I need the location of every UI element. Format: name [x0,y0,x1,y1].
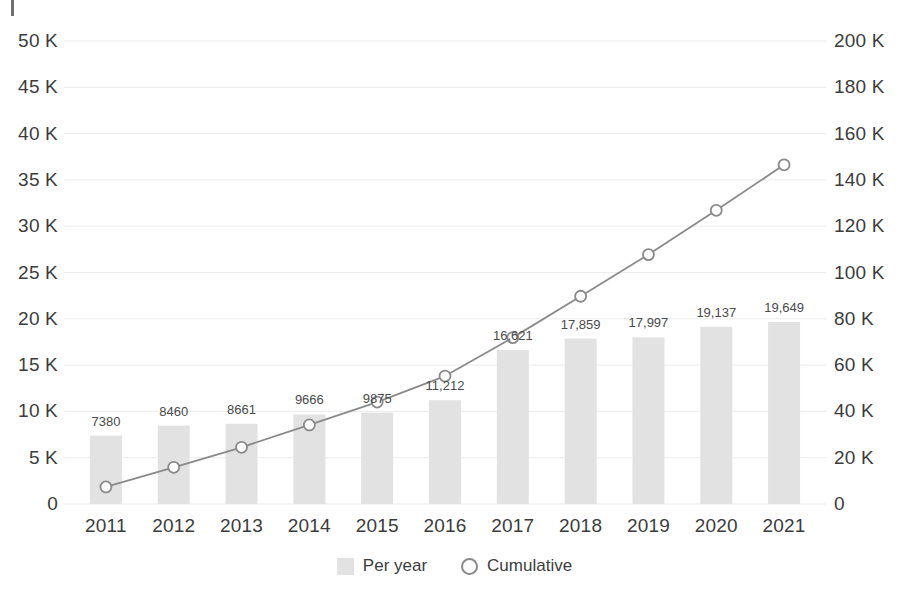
right-axis-tick-180K: 180 K [834,76,885,98]
bar-2018[interactable] [565,339,597,504]
legend-item-cumulative[interactable]: Cumulative [461,556,572,576]
right-axis-tick-0: 0 [834,493,845,515]
left-axis-tick-30K: 30 K [18,215,58,237]
chart-legend: Per year Cumulative [0,556,909,576]
cumulative-point-2018[interactable] [575,291,586,302]
right-axis-tick-140K: 140 K [834,169,885,191]
cumulative-point-2013[interactable] [236,442,247,453]
x-axis-tick-2021: 2021 [744,515,824,537]
bar-value-2021: 19,649 [744,300,824,315]
bar-value-2016: 11,212 [405,378,485,393]
left-axis-tick-50K: 50 K [18,30,58,52]
right-axis-tick-20K: 20 K [834,447,874,469]
right-axis-tick-160K: 160 K [834,123,885,145]
bar-2011[interactable] [90,436,122,504]
bar-2015[interactable] [361,413,393,504]
bar-2013[interactable] [226,424,258,504]
cumulative-point-2020[interactable] [711,205,722,216]
circle-marker-icon [461,558,478,575]
left-axis-tick-5K: 5 K [29,447,58,469]
left-axis-tick-10K: 10 K [18,400,58,422]
cumulative-point-2012[interactable] [168,462,179,473]
cumulative-point-2014[interactable] [304,419,315,430]
legend-label-per-year: Per year [363,556,427,576]
bar-2019[interactable] [632,337,664,504]
legend-item-per-year[interactable]: Per year [337,556,427,576]
left-axis-tick-35K: 35 K [18,169,58,191]
right-axis-tick-60K: 60 K [834,354,874,376]
right-axis-tick-80K: 80 K [834,308,874,330]
left-axis-tick-25K: 25 K [18,262,58,284]
legend-label-cumulative: Cumulative [487,556,572,576]
right-axis-tick-120K: 120 K [834,215,885,237]
left-axis-tick-40K: 40 K [18,123,58,145]
right-axis-tick-100K: 100 K [834,262,885,284]
left-axis-tick-15K: 15 K [18,354,58,376]
bar-2017[interactable] [497,350,529,504]
left-axis-tick-45K: 45 K [18,76,58,98]
cumulative-point-2011[interactable] [100,481,111,492]
left-axis-tick-0: 0 [47,493,58,515]
bar-2016[interactable] [429,400,461,504]
bar-2020[interactable] [700,327,732,504]
right-axis-tick-200K: 200 K [834,30,885,52]
cumulative-per-year-chart: 05 K10 K15 K20 K25 K30 K35 K40 K45 K50 K… [0,0,909,599]
cumulative-point-2019[interactable] [643,249,654,260]
right-axis-tick-40K: 40 K [834,400,874,422]
bar-swatch-icon [337,558,354,575]
cumulative-point-2021[interactable] [779,159,790,170]
left-axis-tick-20K: 20 K [18,308,58,330]
bar-2021[interactable] [768,322,800,504]
